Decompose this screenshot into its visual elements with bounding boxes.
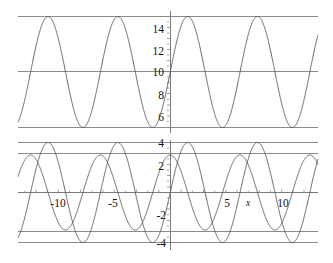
xtick-label-5: 5 xyxy=(224,197,230,209)
chart-figure: 14 12 10 8 6 xyxy=(0,0,333,263)
lower-plot-x-tick-labels: -10 -5 5 10 xyxy=(50,197,289,209)
lower-plot: 4 2 -2 -4 -10 -5 5 10 x xyxy=(18,137,318,250)
x-axis-label: x xyxy=(245,198,251,208)
upper-plot: 14 12 10 8 6 xyxy=(18,11,318,133)
ytick-label-neg4: -4 xyxy=(156,237,166,249)
dual-sine-plot: 14 12 10 8 6 xyxy=(0,0,333,263)
ytick-label-4: 4 xyxy=(158,137,164,149)
xtick-label-10: 10 xyxy=(277,197,289,209)
ytick-label-8: 8 xyxy=(158,89,164,101)
xtick-label-neg5: -5 xyxy=(108,197,118,209)
ytick-label-14: 14 xyxy=(153,23,165,35)
ytick-label-10: 10 xyxy=(153,66,165,78)
ytick-label-12: 12 xyxy=(153,45,165,57)
